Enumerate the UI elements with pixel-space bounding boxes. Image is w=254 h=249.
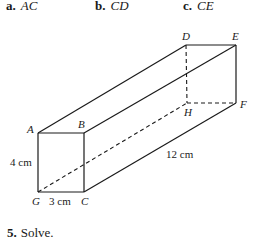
dimension-width: 3 cm xyxy=(49,195,71,207)
vertex-label-d: D xyxy=(181,30,190,42)
vertex-label-b: B xyxy=(78,118,85,130)
vertex-label-h: H xyxy=(183,106,193,118)
problem-number: 5. xyxy=(7,225,17,240)
vertex-label-c: C xyxy=(81,195,89,207)
dimension-length: 12 cm xyxy=(166,148,194,160)
vertex-label-a: A xyxy=(26,123,34,135)
vertex-label-e: E xyxy=(231,30,239,42)
vertex-label-g: G xyxy=(32,195,40,207)
vertex-label-f: F xyxy=(239,98,247,110)
problem-5-heading: 5.Solve. xyxy=(7,225,54,241)
problem-instruction: Solve. xyxy=(21,225,54,240)
dimension-height: 4 cm xyxy=(10,156,32,168)
rectangular-prism-figure: A B C D E F G H 4 cm 3 cm 12 cm xyxy=(0,0,254,249)
